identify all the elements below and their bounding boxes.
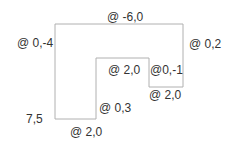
segment-label-bottom: @ 2,0 (70, 126, 102, 138)
segment-label-inner-bottom: @ 2,0 (149, 89, 181, 101)
segment-label-inner-top: @ 2,0 (108, 64, 140, 76)
segment-label-inner-up: @0,-1 (150, 64, 183, 76)
start-point-label: 7,5 (26, 113, 43, 125)
segment-label-left: @ 0,-4 (17, 37, 53, 49)
segment-label-top: @ -6,0 (107, 11, 143, 23)
segment-label-inner-down: @ 0,3 (99, 102, 131, 114)
segment-label-right: @ 0,2 (189, 38, 221, 50)
